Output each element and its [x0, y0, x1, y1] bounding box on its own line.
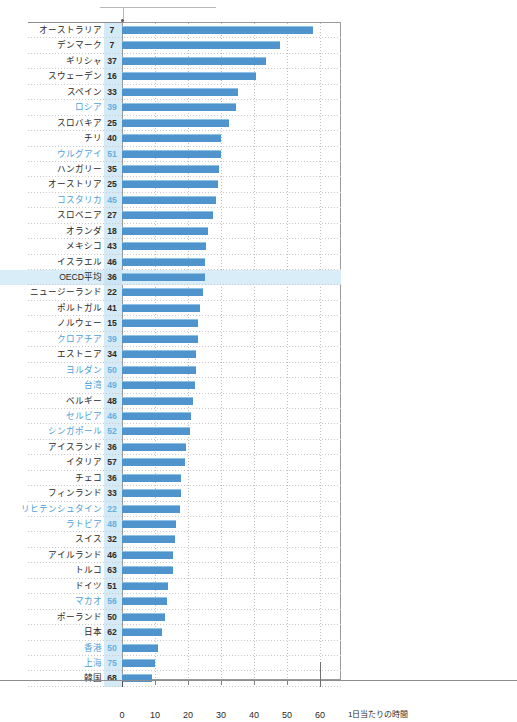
chart-row: スロバキア25 [0, 116, 517, 131]
chart-row: ニュージーランド22 [0, 285, 517, 300]
country-label: トルコ [10, 563, 102, 578]
secondary-value: 32 [104, 532, 120, 547]
chart-row: スイス32 [0, 532, 517, 547]
x-tick-label-20: 20 [173, 708, 203, 722]
secondary-value: 22 [104, 502, 120, 517]
x-axis-title: 1日当たりの時間 [348, 708, 408, 722]
secondary-value: 48 [104, 394, 120, 409]
country-label: エストニア [10, 347, 102, 362]
x-axis-line [0, 680, 517, 681]
bar [122, 458, 185, 466]
secondary-value: 41 [104, 301, 120, 316]
secondary-value: 49 [104, 378, 120, 393]
chart-row: オーストラリア7 [0, 23, 517, 38]
bar [122, 72, 256, 80]
secondary-value: 35 [104, 162, 120, 177]
chart-row: コスタリカ45 [0, 193, 517, 208]
bar [122, 551, 173, 559]
chart-row: チェコ36 [0, 471, 517, 486]
bar [122, 427, 190, 435]
secondary-value: 15 [104, 316, 120, 331]
secondary-value: 46 [104, 409, 120, 424]
bar [122, 227, 208, 235]
country-label: アイスランド [10, 440, 102, 455]
country-label: ギリシャ [10, 54, 102, 69]
bar [122, 165, 219, 173]
secondary-value: 51 [104, 579, 120, 594]
bar [122, 535, 175, 543]
chart-row: ギリシャ37 [0, 54, 517, 69]
country-label: 日本 [10, 625, 102, 640]
chart-row: トルコ63 [0, 563, 517, 578]
bar [122, 41, 280, 49]
chart-row: ポーランド50 [0, 610, 517, 625]
country-label: 香港 [10, 641, 102, 656]
chart-rows: オーストラリア7デンマーク7ギリシャ37スウェーデン16スペイン33ロシア39ス… [0, 23, 517, 687]
country-label: リヒテンシュタイン [10, 502, 102, 517]
secondary-value: 33 [104, 486, 120, 501]
chart-row: エストニア34 [0, 347, 517, 362]
secondary-value: 7 [104, 23, 120, 38]
chart-row: セルビア46 [0, 409, 517, 424]
country-label: クロアチア [10, 332, 102, 347]
annotation-horizontal-line [100, 7, 216, 8]
country-label: シンガポール [10, 424, 102, 439]
secondary-value: 56 [104, 594, 120, 609]
x-tick-20 [188, 681, 189, 685]
x-axis-end-marker [320, 662, 321, 687]
secondary-value: 36 [104, 440, 120, 455]
country-label: ヨルダン [10, 363, 102, 378]
chart-row: イスラエル46 [0, 255, 517, 270]
country-label: ロシア [10, 100, 102, 115]
secondary-value: 46 [104, 548, 120, 563]
country-label: メキシコ [10, 239, 102, 254]
bar [122, 597, 167, 605]
secondary-value: 51 [104, 147, 120, 162]
top-annotation [0, 0, 517, 22]
x-tick-50 [287, 681, 288, 685]
bar [122, 613, 165, 621]
x-tick-label-0: 0 [107, 708, 137, 722]
bar [122, 674, 152, 682]
x-tick-label-40: 40 [239, 708, 269, 722]
secondary-value: 50 [104, 641, 120, 656]
secondary-value: 40 [104, 131, 120, 146]
secondary-value: 27 [104, 208, 120, 223]
bar [122, 381, 195, 389]
bar [122, 350, 196, 358]
bar [122, 288, 203, 296]
row-separator [28, 686, 341, 687]
bar [122, 443, 186, 451]
bar [122, 489, 181, 497]
chart-row: オランダ18 [0, 224, 517, 239]
country-label: ポーランド [10, 610, 102, 625]
chart-row: OECD平均36 [0, 270, 517, 285]
country-label: ノルウェー [10, 316, 102, 331]
x-tick-label-50: 50 [272, 708, 302, 722]
secondary-value: 33 [104, 85, 120, 100]
country-label: ベルギー [10, 394, 102, 409]
chart-row: 日本62 [0, 625, 517, 640]
chart-row: オーストリア25 [0, 177, 517, 192]
x-axis-tick-labels: 0102030405060 [0, 708, 517, 722]
chart-row: 上海75 [0, 656, 517, 671]
secondary-value: 50 [104, 363, 120, 378]
secondary-value: 39 [104, 100, 120, 115]
chart-row: ハンガリー35 [0, 162, 517, 177]
secondary-value: 57 [104, 455, 120, 470]
secondary-value: 34 [104, 347, 120, 362]
bar [122, 273, 205, 281]
chart-row: ドイツ51 [0, 579, 517, 594]
country-label: イスラエル [10, 255, 102, 270]
country-label: スウェーデン [10, 69, 102, 84]
x-tick-40 [254, 681, 255, 685]
chart-row: デンマーク7 [0, 38, 517, 53]
chart-row: イタリア57 [0, 455, 517, 470]
x-tick-label-10: 10 [140, 708, 170, 722]
x-tick-0 [122, 681, 123, 687]
secondary-value: 39 [104, 332, 120, 347]
bar [122, 335, 198, 343]
country-label: ハンガリー [10, 162, 102, 177]
country-label: スイス [10, 532, 102, 547]
secondary-value: 46 [104, 255, 120, 270]
